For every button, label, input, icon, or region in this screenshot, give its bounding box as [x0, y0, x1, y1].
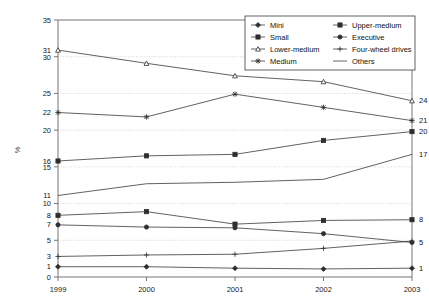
series-lines — [55, 48, 414, 272]
point-value-labels: 31221611873124212017851 — [43, 46, 428, 273]
y-axis-title: % — [13, 146, 22, 153]
data-point-marker — [410, 266, 415, 271]
y-tick-label: 10 — [43, 199, 51, 208]
y-tick-label: 35 — [43, 16, 51, 25]
data-point-marker — [56, 264, 61, 269]
legend-item-label: Executive — [352, 33, 385, 42]
data-point-marker — [256, 35, 260, 39]
x-tick-label: 2001 — [227, 285, 244, 294]
point-value-label: 1 — [419, 264, 423, 273]
y-tick-label: 0 — [47, 273, 51, 282]
point-value-label: 3 — [47, 252, 51, 261]
data-point-marker — [144, 264, 149, 269]
series-upper-medium — [56, 210, 414, 227]
series-executive — [56, 223, 414, 245]
y-tick-label: 25 — [43, 89, 51, 98]
data-point-marker — [56, 223, 60, 227]
legend-item-label: Lower-medium — [270, 45, 320, 54]
series-medium — [55, 91, 414, 123]
point-value-label: 1 — [47, 262, 51, 271]
point-value-label: 17 — [419, 150, 427, 159]
series-four-wheel-drives — [55, 238, 414, 259]
x-tick-label: 2003 — [404, 285, 421, 294]
series-others — [58, 154, 412, 195]
data-point-marker — [144, 225, 148, 229]
data-point-marker — [321, 218, 325, 222]
legend-item-label: Others — [352, 57, 375, 66]
data-point-marker — [233, 266, 238, 271]
data-point-marker — [321, 138, 325, 142]
series-mini — [56, 264, 415, 271]
y-tick-label: 5 — [47, 236, 51, 245]
data-point-marker — [56, 213, 60, 217]
legend-item-label: Small — [270, 33, 289, 42]
y-tick-label: 20 — [43, 126, 51, 135]
series-small — [56, 130, 414, 164]
data-point-marker — [338, 35, 342, 39]
series-path — [58, 154, 412, 195]
chart-container: 05101520253035 19992000200120022003 3122… — [0, 0, 429, 306]
y-axis-ticks: 05101520253035 — [43, 16, 58, 282]
data-point-marker — [56, 159, 60, 163]
x-axis-ticks: 19992000200120022003 — [50, 277, 421, 294]
legend-item-label: Upper-medium — [352, 21, 402, 30]
chart-legend[interactable]: MiniUpper-mediumSmallExecutiveLower-medi… — [245, 16, 415, 70]
data-point-marker — [410, 218, 414, 222]
legend-item-label: Mini — [270, 21, 284, 30]
line-chart: 05101520253035 19992000200120022003 3122… — [0, 0, 429, 306]
point-value-label: 5 — [419, 238, 423, 247]
point-value-label: 21 — [419, 116, 427, 125]
point-value-label: 8 — [47, 211, 51, 220]
data-point-marker — [410, 130, 414, 134]
point-value-label: 8 — [419, 215, 423, 224]
data-point-marker — [233, 152, 237, 156]
data-point-marker — [144, 210, 148, 214]
legend-item-label: Medium — [270, 57, 297, 66]
data-point-marker — [321, 232, 325, 236]
point-value-label: 24 — [419, 96, 427, 105]
data-point-marker — [338, 23, 342, 27]
data-point-marker — [144, 154, 148, 158]
data-point-marker — [321, 266, 326, 271]
series-path — [58, 94, 412, 120]
y-axis-title-text: % — [13, 146, 22, 153]
point-value-label: 22 — [43, 108, 51, 117]
point-value-label: 11 — [43, 191, 51, 200]
x-tick-label: 2000 — [138, 285, 155, 294]
point-value-label: 31 — [43, 46, 51, 55]
point-value-label: 7 — [47, 220, 51, 229]
point-value-label: 20 — [419, 127, 427, 136]
data-point-marker — [233, 226, 237, 230]
point-value-label: 16 — [43, 157, 51, 166]
x-tick-label: 2002 — [315, 285, 332, 294]
legend-item-label: Four-wheel drives — [352, 45, 412, 54]
x-tick-label: 1999 — [50, 285, 67, 294]
